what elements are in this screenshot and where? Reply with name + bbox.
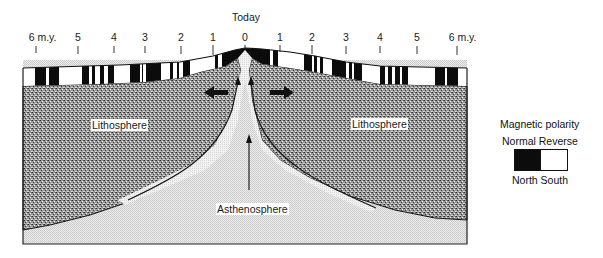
tick-label-left-6: 6 m.y.: [29, 31, 57, 43]
legend-reverse-swatch: [541, 149, 568, 171]
today-label: Today: [232, 11, 260, 23]
tick-label-right-3: 3: [343, 31, 349, 43]
legend-normal-swatch: [514, 149, 541, 171]
tick-label-left-4: 4: [111, 31, 117, 43]
tick-label-right-1: 1: [277, 31, 283, 43]
lithosphere-left-label: Lithosphere: [91, 119, 148, 131]
tick-label-center-0: 0: [242, 31, 248, 43]
tick-label-left-1: 1: [210, 31, 216, 43]
tick-label-right-4: 4: [377, 31, 383, 43]
legend-title: Magnetic polarity: [500, 118, 579, 130]
tick-label-left-3: 3: [142, 31, 148, 43]
tick-label-right-6: 6 m.y.: [449, 31, 477, 43]
tick-label-left-2: 2: [178, 31, 184, 43]
legend-direction-labels: North South: [512, 174, 568, 186]
tick-label-right-2: 2: [309, 31, 315, 43]
tick-label-left-5: 5: [75, 31, 81, 43]
legend-polarity-labels: Normal Reverse: [502, 135, 578, 147]
lithosphere-right-label: Lithosphere: [351, 118, 408, 130]
asthenosphere-label: Asthenosphere: [216, 203, 289, 215]
tick-label-right-5: 5: [414, 31, 420, 43]
